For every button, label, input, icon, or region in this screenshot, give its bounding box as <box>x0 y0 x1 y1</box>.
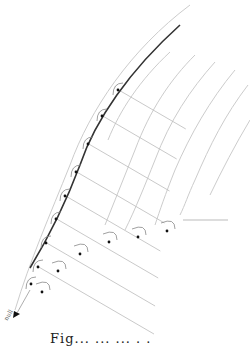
grid-lines <box>37 89 186 334</box>
bottom-mark <box>161 221 175 229</box>
grid-line <box>101 115 177 159</box>
dot <box>137 236 140 239</box>
main-curve <box>30 25 180 268</box>
dot <box>79 253 82 256</box>
dot <box>55 218 58 221</box>
bottom-mark <box>52 261 66 269</box>
dot <box>41 291 44 294</box>
dot <box>30 283 33 286</box>
bottom-mark <box>36 282 50 290</box>
dot <box>45 242 48 245</box>
bottom-mark <box>74 244 88 252</box>
grid-line <box>64 195 160 251</box>
dots <box>30 89 169 294</box>
right-angle-marks <box>26 83 175 290</box>
caption: Fig... ... ... . . <box>50 331 151 346</box>
arc-line <box>210 120 250 195</box>
dot <box>108 241 111 244</box>
arrow-shaft <box>17 290 30 313</box>
dot <box>166 230 169 233</box>
bottom-mark <box>132 227 146 235</box>
grid-line <box>87 143 170 191</box>
dot <box>101 115 104 118</box>
dot <box>64 195 67 198</box>
grid-line <box>75 171 164 223</box>
arrow-head-icon <box>13 311 20 318</box>
arc-line <box>105 55 195 225</box>
dot <box>75 171 78 174</box>
grid-line <box>37 266 154 334</box>
inner-arc <box>108 52 170 140</box>
grid-line <box>55 218 158 278</box>
arc-line <box>155 70 235 225</box>
dot <box>117 89 120 92</box>
outer-arc <box>15 5 190 310</box>
grid-line <box>117 89 186 129</box>
dot <box>37 266 40 269</box>
dot <box>87 143 90 146</box>
grid-line <box>45 242 155 306</box>
arc-line <box>180 85 248 215</box>
dot <box>57 270 60 273</box>
outer-arcs <box>15 5 250 310</box>
bottom-mark <box>103 232 117 240</box>
